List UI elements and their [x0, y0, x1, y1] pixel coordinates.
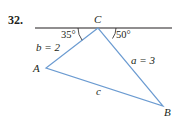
vertex-label-a: A	[32, 62, 40, 74]
side-label-c: c	[96, 85, 101, 97]
side-label-b: b = 2	[36, 41, 60, 53]
angle-label-50: 50°	[116, 29, 131, 40]
side-label-a: a = 3	[131, 54, 155, 66]
vertex-label-b: B	[164, 106, 171, 118]
angle-label-35: 35°	[61, 29, 76, 40]
vertex-label-c: C	[94, 13, 102, 25]
angle-arc-35	[78, 28, 82, 40]
problem-number: 32.	[8, 13, 23, 27]
triangle-diagram: 32. C A B 35° 50° b = 2 a = 3 c	[0, 0, 184, 119]
